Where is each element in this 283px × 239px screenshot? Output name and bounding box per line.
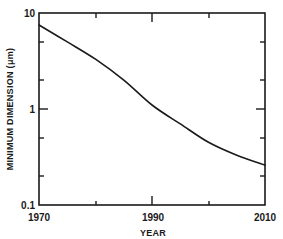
y-tick-label-1: 1	[29, 104, 35, 115]
x-axis-title: YEAR	[140, 228, 166, 238]
chart: 10 1 0.1 1970 1990 2010 YEAR MINIMUM DIM…	[0, 0, 283, 239]
data-line	[39, 25, 265, 165]
x-tick-label-1990: 1990	[142, 212, 165, 223]
x-ticks-top	[96, 13, 209, 22]
x-tick-label-1970: 1970	[28, 212, 51, 223]
y-tick-label-0-1: 0.1	[21, 200, 35, 211]
y-ticks-right	[256, 42, 265, 176]
y-axis-title: MINIMUM DIMENSION (μm)	[5, 48, 15, 171]
x-tick-label-2010: 2010	[254, 212, 277, 223]
y-ticks-left	[39, 42, 48, 176]
y-tick-label-10: 10	[24, 8, 36, 19]
x-ticks-bottom	[96, 196, 209, 205]
plot-frame	[39, 13, 265, 205]
